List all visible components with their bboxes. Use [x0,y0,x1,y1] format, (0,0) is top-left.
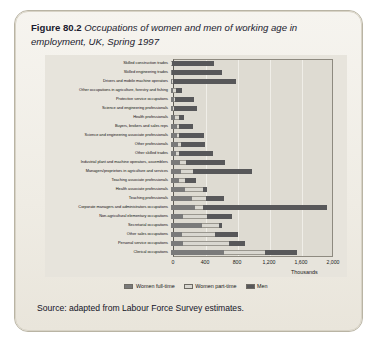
chart-row: Secretarial occupations [45,221,333,230]
stacked-bar [171,149,331,158]
category-label: Non-agricultural elementary occupations [45,214,171,218]
legend-item-wft: Women full-time [124,283,174,289]
stacked-bar [171,185,331,194]
category-label: Drivers and mobile machine operators [45,79,171,83]
figure-number: Figure 80.2 [31,22,82,33]
bar-segment-men [179,115,184,119]
bar-segment-men [174,106,197,110]
chart-row: Other sales occupations [45,230,333,239]
bar-segment-wft [171,241,183,245]
bar-segment-wft [171,196,192,200]
bar-segment-men [207,214,232,218]
bar-segment-men [172,61,214,65]
bar-segment-men [181,142,205,146]
bar-segment-men [179,151,213,155]
legend-item-wpt: Women part-time [184,283,237,289]
category-label: Personal service occupations [45,241,171,245]
bar-segment-men [206,196,224,200]
bar-segment-men [265,250,297,254]
chart-row: Managers/proprietors in agriculture and … [45,167,333,176]
chart-row: Teaching professionals [45,194,333,203]
stacked-bar [171,86,331,95]
figure-screenshot: Figure 80.2 Occupations of women and men… [0,0,377,348]
chart-row: Personal service occupations [45,239,333,248]
stacked-bar [171,176,331,185]
category-label: Teaching associate professionals [45,178,171,182]
chart-row: Other professionals [45,140,333,149]
category-label: Other occupations in agriculture, forest… [45,88,171,92]
category-label: Corporate managers and administrators oc… [45,205,171,209]
bar-segment-wft [171,142,178,146]
figure-title: Figure 80.2 Occupations of women and men… [31,21,349,49]
bar-segment-wft [171,160,180,164]
stacked-bar [171,194,331,203]
bar-segment-men [229,241,245,245]
stacked-bar [171,167,331,176]
bar-segment-men [203,205,327,209]
legend-swatch-men [246,284,255,289]
stacked-bar [171,239,331,248]
category-label: Health professionals [45,115,171,119]
stacked-bar [171,131,331,140]
chart-row: Corporate managers and administrators oc… [45,203,333,212]
stacked-bar [171,212,331,221]
bar-segment-men [173,79,236,83]
bar-segment-men [186,160,225,164]
bar-segment-men [179,124,192,128]
bar-segment-wft [171,223,202,227]
chart-row: Protective service occupations [45,95,333,104]
x-tick-label: 1,200 [263,259,276,265]
bar-segment-wft [171,205,195,209]
figure-source: Source: adapted from Labour Force Survey… [37,303,244,313]
x-tick-label: 2,000 [327,259,340,265]
x-axis-unit-label: Thousands [291,269,318,275]
category-label: Science and engineering associate profes… [45,133,171,137]
bar-segment-wpt [192,196,206,200]
bar-segment-wpt [182,232,216,236]
bar-segment-wpt [183,214,208,218]
legend-item-men: Men [246,283,268,289]
bar-segment-men [176,88,182,92]
stacked-bar [171,68,331,77]
bar-segment-men [215,232,237,236]
legend-swatch-wft [124,284,133,289]
bar-segment-wpt [181,169,193,173]
bar-segment-wft [171,214,183,218]
category-label: Industrial plant and machine operators, … [45,160,171,164]
chart-row: Non-agricultural elementary occupations [45,212,333,221]
chart-row: Health associate professionals [45,185,333,194]
stacked-bar [171,140,331,149]
category-label: Secretarial occupations [45,223,171,227]
legend-swatch-wpt [184,284,193,289]
bar-segment-men [193,169,252,173]
x-tick-label: 400 [201,259,210,265]
bar-segment-wft [171,232,182,236]
category-label: Other sales occupations [45,232,171,236]
bar-segment-wpt [183,241,229,245]
category-label: Skilled construction trades [45,61,171,65]
chart-row: Other occupations in agriculture, forest… [45,86,333,95]
chart-row: Buyers, brokers and sales reps [45,122,333,131]
bar-segment-wpt [195,205,203,209]
stacked-bar [171,203,331,212]
stacked-bar [171,221,331,230]
x-tick-label: 0 [172,259,175,265]
bar-segment-wft [171,250,224,254]
bar-segment-men [175,97,193,101]
bar-segment-wft [171,178,179,182]
chart-row: Science and engineering professionals [45,104,333,113]
legend-label: Women part-time [195,283,236,289]
category-label: Teaching professionals [45,196,171,200]
chart-bar-rows: Skilled construction tradesSkilled engin… [45,59,333,257]
category-label: Buyers, brokers and sales reps [45,124,171,128]
chart-plot-panel: Skilled construction tradesSkilled engin… [45,55,347,277]
bar-segment-men [185,178,196,182]
chart-row: Skilled engineering trades [45,68,333,77]
chart-row: Science and engineering associate profes… [45,131,333,140]
x-tick-label: 1,600 [295,259,308,265]
stacked-bar [171,95,331,104]
chart-row: Teaching associate professionals [45,176,333,185]
chart-row: Industrial plant and machine operators, … [45,158,333,167]
stacked-bar [171,104,331,113]
x-tick-label: 800 [233,259,242,265]
